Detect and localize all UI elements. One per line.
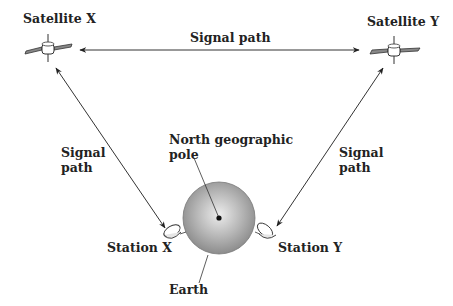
signal-path-left-label-line1: Signal xyxy=(61,146,105,160)
satellite-x-label: Satellite X xyxy=(23,12,96,26)
satellite-signal-diagram: Satellite X Satellite Y Signal path Sign… xyxy=(0,0,453,306)
station-x-dish-icon xyxy=(162,222,186,240)
station-x-label: Station X xyxy=(107,241,172,255)
signal-path-right-label-line2: path xyxy=(339,161,371,175)
earth-label: Earth xyxy=(169,283,208,297)
signal-path-right-label-line1: Signal xyxy=(339,146,383,160)
station-y-dish-icon xyxy=(255,220,276,239)
satellite-y-icon xyxy=(370,36,420,64)
signal-path-left-label-line2: path xyxy=(61,161,93,175)
signal-path-top-label: Signal path xyxy=(190,31,271,45)
satellite-y-label: Satellite Y xyxy=(367,15,439,29)
satellite-x-icon xyxy=(25,34,72,62)
north-pole-label-line1: North geographic xyxy=(169,133,293,147)
north-pole-label-line2: pole xyxy=(169,148,199,162)
station-y-label: Station Y xyxy=(278,241,342,255)
earth-leader-line xyxy=(199,255,208,283)
